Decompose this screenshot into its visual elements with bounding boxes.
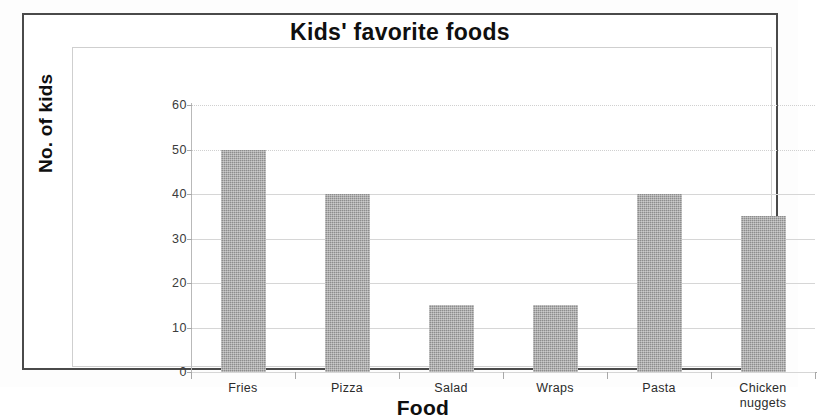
x-axis-category-label: Pasta	[607, 381, 711, 396]
y-axis-tick-mark	[187, 239, 192, 240]
x-axis-category-label-line: Fries	[191, 381, 295, 396]
y-axis-tick-label: 50	[153, 143, 187, 157]
x-axis-category-label-line: Wraps	[503, 381, 607, 396]
y-axis-tick-label: 40	[153, 187, 187, 201]
y-axis-title: No. of kids	[35, 43, 57, 173]
gridline	[191, 150, 815, 151]
gridline	[191, 194, 815, 195]
plot-area	[191, 105, 815, 372]
category-tick	[711, 372, 712, 379]
bar	[741, 216, 786, 372]
x-axis-category-label-line: Pizza	[295, 381, 399, 396]
category-tick	[503, 372, 504, 379]
category-tick	[399, 372, 400, 379]
category-tick	[295, 372, 296, 379]
bar	[325, 194, 370, 372]
gridline	[191, 239, 815, 240]
category-tick	[815, 372, 816, 379]
bar	[429, 305, 474, 372]
x-axis-category-label: Wraps	[503, 381, 607, 396]
y-axis-tick-mark	[187, 150, 192, 151]
bar	[637, 194, 682, 372]
y-axis-tick-mark	[187, 194, 192, 195]
chart-title: Kids' favorite foods	[24, 19, 776, 46]
bar	[221, 150, 266, 373]
y-axis-tick-labels: 0102030405060	[147, 105, 187, 372]
y-axis-tick-label: 60	[153, 98, 187, 112]
y-axis-tick-mark	[187, 105, 192, 106]
y-axis-tick-mark	[187, 283, 192, 284]
y-axis-tick-label: 20	[153, 276, 187, 290]
x-axis-category-label-line: Chicken	[711, 381, 815, 396]
y-axis-tick-label: 0	[153, 365, 187, 379]
gridline	[191, 283, 815, 284]
category-tick	[191, 372, 192, 379]
x-axis-category-label: Salad	[399, 381, 503, 396]
bar	[533, 305, 578, 372]
x-axis-category-label: Fries	[191, 381, 295, 396]
y-axis-tick-mark	[187, 328, 192, 329]
chart-frame: Kids' favorite foods No. of kids 0102030…	[22, 13, 778, 370]
y-axis-tick-label: 10	[153, 321, 187, 335]
x-axis-category-label-line: Salad	[399, 381, 503, 396]
x-axis-category-label: Pizza	[295, 381, 399, 396]
x-axis-title: Food	[73, 396, 773, 419]
y-axis-tick-label: 30	[153, 232, 187, 246]
category-tick	[607, 372, 608, 379]
x-axis-category-label-line: Pasta	[607, 381, 711, 396]
gridline	[191, 328, 815, 329]
gridline	[191, 105, 815, 106]
plot-border: 0102030405060 FriesPizzaSaladWrapsPastaC…	[72, 47, 772, 367]
